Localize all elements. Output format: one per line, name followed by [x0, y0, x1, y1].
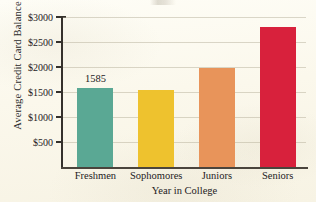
bar-juniors — [199, 68, 235, 167]
cropped-title-artifact — [150, 0, 176, 5]
y-axis-tick-label: $2500 — [28, 37, 53, 48]
x-axis-label-sophomores: Sophomores — [130, 170, 183, 181]
y-axis-tick — [56, 16, 62, 18]
y-axis-tick — [56, 91, 62, 93]
x-axis-label-seniors: Seniors — [262, 170, 294, 181]
y-axis-tick-label: $500 — [33, 137, 53, 148]
y-axis-tick-label: $1500 — [28, 87, 53, 98]
plot-area: $500$1000$1500$2000$2500$3000 1585 Fresh… — [63, 17, 306, 167]
x-axis-label-freshmen: Freshmen — [75, 170, 116, 181]
bar-freshmen: 1585 — [77, 88, 113, 167]
y-axis-tick-label: $1000 — [28, 112, 53, 123]
x-axis-line — [61, 167, 308, 169]
y-axis-tick — [56, 66, 62, 68]
y-axis-tick — [56, 41, 62, 43]
bar-sophomores — [138, 90, 174, 168]
y-axis-tick — [56, 141, 62, 143]
bar-value-label: 1585 — [85, 73, 106, 84]
y-axis-tick-label: $2000 — [28, 62, 53, 73]
bar-seniors — [260, 27, 296, 167]
y-axis-tick — [56, 116, 62, 118]
bar-fill — [260, 27, 296, 167]
bar-chart-figure: Average Credit Card Balance $500$1000$15… — [0, 0, 316, 202]
y-axis-tick-label: $3000 — [28, 12, 53, 23]
gridline — [63, 17, 306, 18]
bar-fill — [138, 90, 174, 168]
bar-fill — [199, 68, 235, 167]
x-axis-title: Year in College — [63, 185, 306, 196]
y-axis-title: Average Credit Card Balance — [12, 0, 23, 141]
bar-fill — [77, 88, 113, 167]
x-axis-label-juniors: Juniors — [202, 170, 232, 181]
